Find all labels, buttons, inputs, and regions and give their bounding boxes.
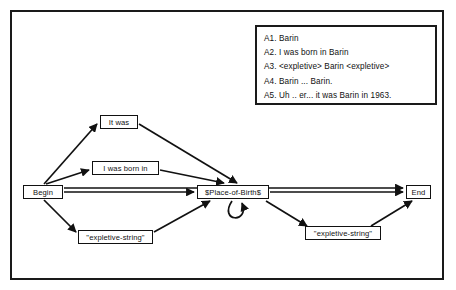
edge-begin-to-iwasbornin bbox=[46, 170, 89, 184]
edge-place-to-expletive-right bbox=[266, 201, 307, 226]
edge-begin-to-expletive-left bbox=[44, 200, 76, 232]
edge-expletive-right-to-end bbox=[371, 201, 412, 226]
graph-node-place-of-birth-label: $Place-of-Birth$ bbox=[205, 188, 261, 197]
edge-place-self-loop bbox=[228, 201, 243, 218]
edge-iwasbornin-to-place bbox=[160, 170, 224, 183]
figure-container: Begin It was I was born in "expletive-st… bbox=[0, 0, 456, 290]
answer-line-a3: A3. <expletive> Barin <expletive> bbox=[264, 60, 435, 74]
answers-panel: A1. Barin A2. I was born in Barin A3. <e… bbox=[255, 25, 437, 105]
graph-node-i-was-born-in-label: I was born in bbox=[103, 164, 147, 173]
graph-node-expletive-string-right-label: "expletive-string" bbox=[314, 229, 372, 238]
graph-node-begin-label: Begin bbox=[33, 188, 53, 197]
graph-node-i-was-born-in[interactable]: I was born in bbox=[92, 161, 159, 175]
edge-begin-to-itwas bbox=[44, 124, 97, 184]
graph-node-end[interactable]: End bbox=[406, 185, 431, 199]
answer-line-a2: A2. I was born in Barin bbox=[264, 46, 435, 60]
graph-node-expletive-string-right[interactable]: "expletive-string" bbox=[305, 226, 381, 240]
graph-node-expletive-string-left-label: "expletive-string" bbox=[86, 233, 144, 242]
graph-node-expletive-string-left[interactable]: "expletive-string" bbox=[78, 230, 153, 244]
edge-expletive-left-to-place bbox=[154, 201, 210, 232]
graph-node-end-label: End bbox=[412, 188, 426, 197]
answer-line-a4: A4. Barin ... Barin. bbox=[264, 75, 435, 89]
graph-node-place-of-birth[interactable]: $Place-of-Birth$ bbox=[197, 185, 269, 199]
graph-node-it-was[interactable]: It was bbox=[100, 115, 138, 129]
answer-line-a1: A1. Barin bbox=[264, 32, 435, 46]
answer-line-a5: A5. Uh .. er... it was Barin in 1963. bbox=[264, 89, 435, 103]
graph-node-begin[interactable]: Begin bbox=[23, 185, 63, 199]
graph-node-it-was-label: It was bbox=[109, 118, 129, 127]
